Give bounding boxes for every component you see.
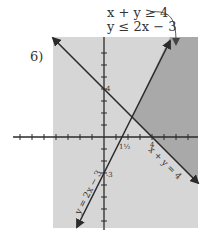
x-intercept-4: 4 (150, 141, 155, 149)
inequality-1: x + y ≥ 4 (107, 6, 168, 20)
problem-number: 6) (30, 49, 43, 64)
graph: x + y = 4 y = 2x − 3 4 -3 1½ 4 (0, 0, 209, 245)
y-intercept-4: 4 (106, 85, 111, 93)
y-intercept-neg3: -3 (106, 171, 113, 179)
x-intercept-1-5: 1½ (119, 143, 130, 151)
inequality-2: y ≤ 2x − 3 (107, 20, 177, 34)
